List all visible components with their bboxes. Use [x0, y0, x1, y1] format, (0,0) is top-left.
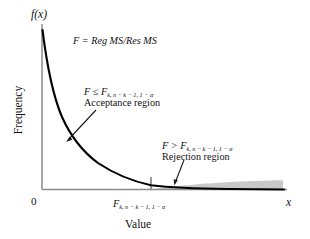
- rejection-condition-lead: F > F: [162, 140, 186, 151]
- acceptance-condition-subscript: k, n − k − 1, 1 − α: [107, 91, 153, 98]
- y-axis-caption: f(x): [31, 8, 47, 20]
- f-distribution-figure: f(x) Frequency F = Reg MS/Res MS F ≤ Fk,…: [0, 0, 310, 239]
- x-axis-title: Value: [125, 218, 151, 230]
- rejection-region-annotation: F > Fk, n − k − 1, 1 − α Rejection regio…: [162, 141, 232, 162]
- rejection-region-label: Rejection region: [162, 152, 232, 163]
- origin-label: 0: [31, 196, 37, 208]
- acceptance-region-label: Acceptance region: [84, 98, 160, 109]
- acceptance-region-annotation: F ≤ Fk, n − k − 1, 1 − α Acceptance regi…: [84, 87, 160, 108]
- statistic-definition-label: F = Reg MS/Res MS: [73, 36, 157, 47]
- critical-value-subscript: k, n − k − 1, 1 − α: [119, 203, 165, 210]
- rejection-pointer-arrow: [174, 160, 184, 185]
- acceptance-pointer-arrow: [66, 110, 96, 142]
- rejection-condition-subscript: k, n − k − 1, 1 − α: [186, 145, 232, 152]
- x-axis-caption: x: [286, 196, 291, 208]
- y-axis-title: Frequency: [12, 70, 24, 150]
- statistic-definition-text: F = Reg MS/Res MS: [73, 35, 157, 46]
- acceptance-condition-lead: F ≤ F: [84, 86, 107, 97]
- density-curve: [43, 30, 285, 190]
- critical-value-tick-label: Fk, n − k − 1, 1 − α: [113, 199, 165, 210]
